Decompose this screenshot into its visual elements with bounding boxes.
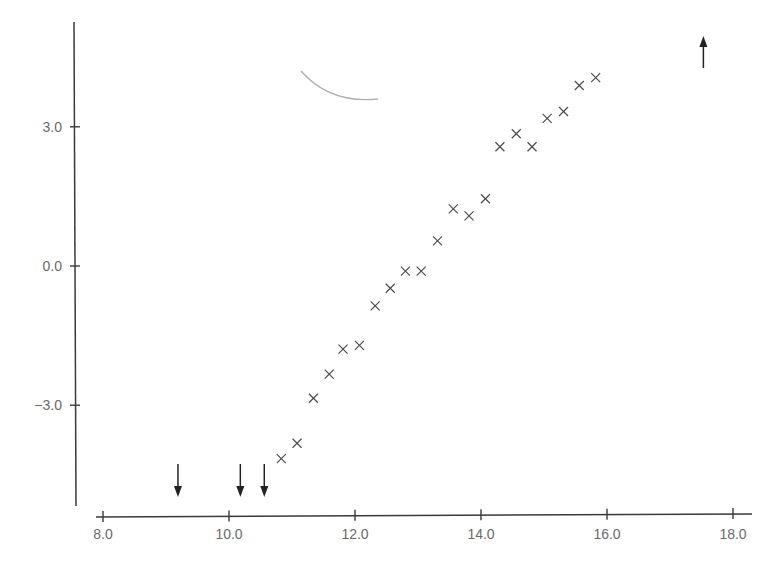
scatter-plot: 3.00.0−3.0 8.010.012.014.016.018.0 <box>0 0 769 563</box>
down-arrow-icon <box>260 464 268 497</box>
data-point-marker <box>339 345 348 354</box>
data-point-marker <box>277 454 286 463</box>
x-tick-label: 14.0 <box>467 526 494 542</box>
data-point-marker <box>355 341 364 350</box>
limit-arrows <box>174 36 707 497</box>
arc-annotation <box>301 71 378 100</box>
x-tick-label: 16.0 <box>593 526 620 542</box>
x-tick-label: 12.0 <box>341 526 368 542</box>
x-axis-ticks: 8.010.012.014.016.018.0 <box>93 508 747 542</box>
data-point-marker <box>433 236 442 245</box>
y-axis-ticks: 3.00.0−3.0 <box>34 119 80 413</box>
data-point-marker <box>528 142 537 151</box>
data-point-marker <box>401 267 410 276</box>
data-point-marker <box>325 370 334 379</box>
data-point-marker <box>512 129 521 138</box>
data-point-marker <box>449 204 458 213</box>
data-point-marker <box>371 301 380 310</box>
up-arrow-icon <box>699 36 707 68</box>
down-arrow-icon <box>174 464 182 497</box>
data-point-marker <box>417 267 426 276</box>
data-point-marker <box>481 194 490 203</box>
data-point-marker <box>293 439 302 448</box>
x-tick-label: 18.0 <box>719 526 746 542</box>
y-axis <box>74 22 76 506</box>
data-point-marker <box>309 394 318 403</box>
data-point-marker <box>591 73 600 82</box>
data-markers <box>277 73 600 463</box>
data-point-marker <box>543 114 552 123</box>
data-point-marker <box>495 142 504 151</box>
x-tick-label: 10.0 <box>215 526 242 542</box>
y-tick-label: 0.0 <box>43 258 63 274</box>
data-point-marker <box>386 284 395 293</box>
x-tick-label: 8.0 <box>93 526 113 542</box>
data-point-marker <box>465 211 474 220</box>
y-tick-label: 3.0 <box>43 119 63 135</box>
data-point-marker <box>559 107 568 116</box>
down-arrow-icon <box>236 464 244 497</box>
data-point-marker <box>575 81 584 90</box>
x-axis <box>96 514 752 517</box>
y-tick-label: −3.0 <box>34 397 62 413</box>
